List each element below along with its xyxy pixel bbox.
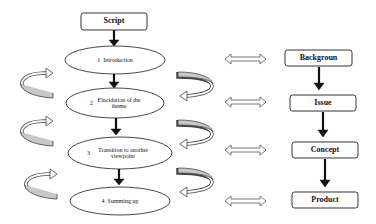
step-3-text: Transition to another viewpoint: [93, 147, 153, 160]
curved-loop-arrow-icon: [178, 72, 213, 197]
script-label: Script: [81, 13, 147, 30]
step-1-text: Introduction: [103, 57, 133, 63]
step-1-label: 1 Introduction: [70, 50, 160, 70]
product-label: Product: [292, 192, 358, 208]
double-arrow-icon: [225, 54, 266, 206]
issue-label: Issue: [290, 95, 356, 111]
background-label: Backgroun: [285, 50, 352, 66]
step-2-label: 2 Elucidation of the theme: [80, 93, 152, 113]
concept-label: Concept: [292, 142, 358, 158]
curved-loop-arrow-icon: [21, 68, 57, 199]
step-4-text: Summing up: [108, 198, 139, 204]
step-4-number: 4: [102, 198, 105, 204]
step-2-number: 2: [90, 100, 93, 106]
step-4-label: 4 Summing up: [80, 191, 160, 211]
step-1-number: 1: [97, 57, 100, 63]
step-2-text: Elucidation of the theme: [96, 97, 142, 110]
step-3-number: 3: [87, 150, 90, 156]
down-arrow-icon: [314, 67, 330, 187]
step-3-label: 3 Transition to another viewpoint: [80, 142, 160, 164]
